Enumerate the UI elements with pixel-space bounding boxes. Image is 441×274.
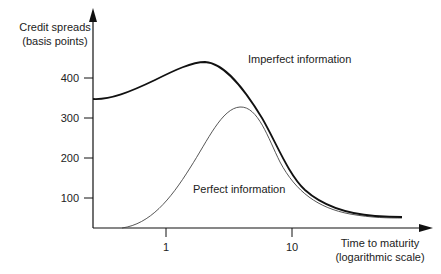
perfect-information-line — [122, 107, 402, 228]
x-tick-label-1: 1 — [156, 240, 176, 254]
y-axis-label-line1: Credit spreads — [10, 20, 100, 34]
y-tick-label-400: 400 — [49, 71, 79, 85]
x-axis-label-line1: Time to maturity — [320, 236, 440, 250]
y-tick-label-300: 300 — [49, 111, 79, 125]
y-axis-label-line2: (basis points) — [10, 34, 100, 48]
credit-spreads-chart: Credit spreads (basis points) 400 300 20… — [0, 0, 441, 274]
x-axis-label-line2: (logarithmic scale) — [320, 250, 440, 264]
y-axis-label: Credit spreads (basis points) — [10, 20, 100, 48]
y-tick-label-100: 100 — [49, 191, 79, 205]
annotation-imperfect-information: Imperfect information — [248, 52, 351, 66]
y-tick-label-200: 200 — [49, 151, 79, 165]
x-axis-arrow-icon — [419, 224, 433, 232]
x-axis-label: Time to maturity (logarithmic scale) — [320, 236, 440, 264]
annotation-perfect-information: Perfect information — [193, 182, 285, 196]
x-tick-label-10: 10 — [282, 240, 302, 254]
